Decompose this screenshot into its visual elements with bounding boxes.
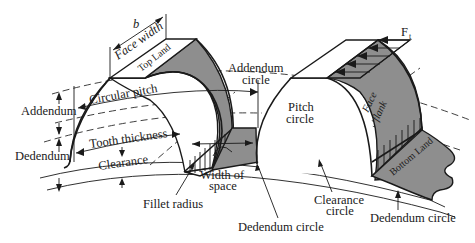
dedendum-circle-right-label: Dedendum circle bbox=[370, 211, 456, 225]
fillet-radius-label: Fillet radius bbox=[143, 197, 203, 211]
addendum-label: Addendum bbox=[21, 104, 77, 118]
gear-tooth-diagram: b Face width Top Land Addendum circle Ci… bbox=[0, 0, 475, 243]
dedendum-circle-center-label: Dedendum circle bbox=[238, 220, 324, 234]
clearance-label: Clearance bbox=[97, 152, 149, 173]
pitch-circle-label-2: circle bbox=[286, 112, 314, 126]
face-width-b-label: b bbox=[133, 17, 139, 31]
width-of-space-label-2: space bbox=[209, 179, 237, 193]
tooth-thickness-label: Tooth thickness bbox=[88, 126, 168, 151]
addendum-dedendum-dimension bbox=[56, 86, 74, 192]
dedendum-circle-center-leader bbox=[258, 166, 278, 218]
clearance-circle-label-2: circle bbox=[326, 204, 354, 218]
dedendum-label: Dedendum bbox=[15, 149, 70, 163]
force-label: F bbox=[401, 25, 408, 39]
addendum-circle-label-2: circle bbox=[242, 73, 270, 87]
right-tooth-face bbox=[257, 78, 374, 176]
